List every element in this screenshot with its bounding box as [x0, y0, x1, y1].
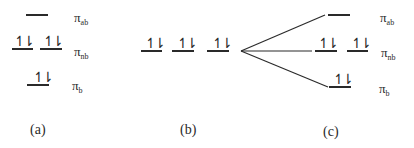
caption-c: (c)	[323, 125, 339, 139]
level-c-nonbonding-1	[315, 50, 337, 52]
correlation-lines	[0, 0, 414, 148]
spin-pair-c-nb2: ↿⇂	[351, 36, 369, 50]
level-c-antibonding	[328, 14, 350, 16]
level-c-nonbonding-2	[347, 50, 368, 52]
correlation-line-antibonding	[241, 15, 325, 51]
label-c-nonbonding: πnb	[381, 46, 396, 64]
label-c-bonding: πb	[379, 82, 390, 100]
label-c-antibonding: πab	[380, 11, 394, 29]
correlation-line-bonding	[241, 51, 328, 87]
spin-pair-c-nb1: ↿⇂	[318, 36, 336, 50]
spin-pair-c-b: ↿⇂	[333, 72, 351, 86]
level-c-bonding	[329, 86, 351, 88]
